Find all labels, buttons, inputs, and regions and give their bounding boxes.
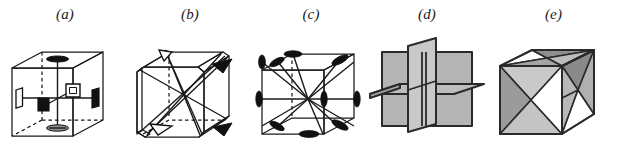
panel-b-label: (b)	[128, 6, 252, 23]
marker-four-fold-right	[92, 88, 99, 108]
marker-two-fold-1	[268, 55, 285, 68]
marker-four-fold-top	[47, 56, 69, 62]
front-face-facets	[500, 66, 562, 134]
panel-d-label: (d)	[366, 6, 488, 23]
marker-two-fold-group	[256, 51, 360, 138]
marker-four-fold-back	[66, 84, 80, 97]
symmetry-elements-figure: (a)	[0, 0, 623, 147]
panel-a-label: (a)	[0, 6, 130, 23]
marker-two-fold-6	[299, 131, 319, 138]
marker-three-fold-top-left	[159, 50, 172, 61]
panel-b: (b)	[128, 0, 252, 147]
marker-two-fold-9	[321, 91, 327, 107]
panel-d: (d)	[366, 0, 488, 147]
panel-e-artwork	[484, 28, 623, 144]
marker-four-fold-bottom	[47, 125, 69, 131]
marker-four-fold-front	[38, 98, 49, 111]
marker-two-fold-7	[256, 91, 262, 107]
panel-e-label: (e)	[484, 6, 623, 23]
marker-three-fold-bottom-left	[150, 124, 172, 135]
panel-d-artwork	[366, 28, 488, 144]
panel-a-artwork	[0, 28, 130, 144]
panel-c-artwork	[248, 28, 374, 144]
panel-a: (a)	[0, 0, 130, 147]
panel-e: (e)	[484, 0, 623, 147]
marker-two-fold-2	[330, 53, 349, 67]
panel-b-artwork	[128, 28, 252, 144]
marker-four-fold-left	[16, 88, 23, 108]
marker-two-fold-5	[330, 118, 349, 132]
panel-c: (c)	[248, 0, 374, 147]
edge-front-left	[137, 68, 142, 134]
marker-two-fold-3	[284, 51, 302, 57]
marker-two-fold-10	[259, 55, 266, 69]
marker-two-fold-8	[354, 91, 360, 107]
panel-c-label: (c)	[248, 6, 374, 23]
